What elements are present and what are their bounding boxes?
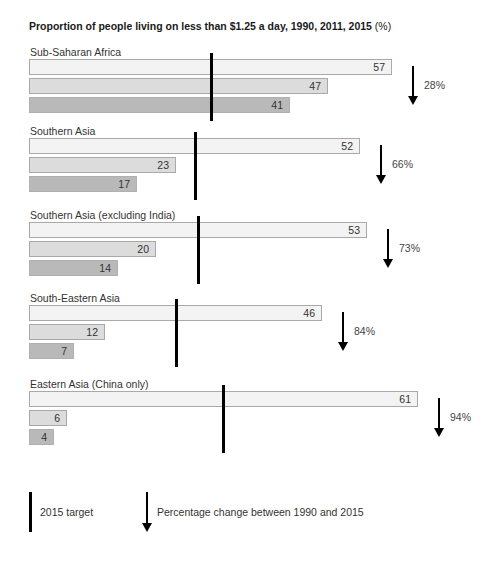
- percentage-change-label: 28%: [424, 79, 445, 91]
- legend-target-label: 2015 target: [40, 506, 93, 518]
- percentage-change-label: 66%: [392, 158, 413, 170]
- region-group: Southern Asia52231766%: [0, 130, 494, 215]
- bar-2011: 12: [29, 324, 105, 340]
- bar-value-label: 41: [271, 99, 283, 111]
- bar-2011: 47: [29, 78, 328, 94]
- region-label: Sub-Saharan Africa: [30, 46, 121, 58]
- percentage-change-label: 94%: [450, 411, 471, 423]
- bar-2015: 4: [29, 429, 54, 445]
- chart-title-unit: (%): [375, 20, 391, 32]
- down-arrow-legend-icon: [142, 492, 152, 532]
- down-arrow-icon: [408, 66, 418, 106]
- bar-2015: 14: [29, 260, 118, 276]
- bar-value-label: 7: [61, 345, 67, 357]
- percentage-change-label: 73%: [399, 242, 420, 254]
- down-arrow-icon: [383, 229, 393, 269]
- bar-value-label: 52: [341, 140, 353, 152]
- bar-2015: 41: [29, 97, 290, 113]
- bar-value-label: 46: [303, 307, 315, 319]
- region-label: Southern Asia: [30, 125, 95, 137]
- region-label: Southern Asia (excluding India): [30, 209, 175, 221]
- region-group: Eastern Asia (China only)616494%: [0, 383, 494, 468]
- bar-value-label: 57: [373, 61, 385, 73]
- chart-title-main: Proportion of people living on less than…: [29, 20, 372, 32]
- bar-value-label: 6: [54, 412, 60, 424]
- legend-change-label: Percentage change between 1990 and 2015: [157, 506, 364, 518]
- percentage-change-label: 84%: [354, 325, 375, 337]
- bar-2015: 17: [29, 176, 137, 192]
- chart-title: Proportion of people living on less than…: [29, 20, 391, 32]
- bar-2011: 20: [29, 241, 156, 257]
- bar-2011: 6: [29, 410, 67, 426]
- bar-value-label: 4: [41, 431, 47, 443]
- bar-value-label: 61: [399, 393, 411, 405]
- bar-value-label: 53: [348, 224, 360, 236]
- region-label: Eastern Asia (China only): [30, 378, 148, 390]
- region-group: Southern Asia (excluding India)53201473%: [0, 214, 494, 299]
- bar-value-label: 17: [118, 178, 130, 190]
- target-2015-line: [197, 216, 200, 284]
- bar-value-label: 47: [309, 80, 321, 92]
- legend: 2015 target Percentage change between 19…: [0, 492, 494, 532]
- bar-value-label: 20: [137, 243, 149, 255]
- region-group: Sub-Saharan Africa57474128%: [0, 51, 494, 136]
- target-2015-line: [222, 385, 225, 453]
- bar-value-label: 14: [99, 262, 111, 274]
- target-2015-line: [175, 299, 178, 367]
- target-line-legend-icon: [29, 492, 32, 532]
- region-label: South-Eastern Asia: [30, 292, 120, 304]
- down-arrow-icon: [338, 312, 348, 352]
- bar-value-label: 12: [86, 326, 98, 338]
- region-group: South-Eastern Asia4612784%: [0, 297, 494, 382]
- target-2015-line: [210, 53, 213, 121]
- target-2015-line: [194, 132, 197, 200]
- bar-2011: 23: [29, 157, 176, 173]
- bar-value-label: 23: [157, 159, 169, 171]
- bar-2015: 7: [29, 343, 74, 359]
- down-arrow-icon: [434, 398, 444, 438]
- down-arrow-icon: [376, 145, 386, 185]
